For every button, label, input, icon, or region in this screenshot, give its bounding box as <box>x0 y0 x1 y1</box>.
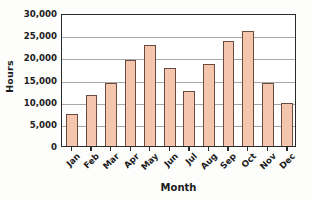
bar <box>183 91 195 146</box>
x-axis-tick-labels: JanFebMarAprMayJunJulAugSepOctNovDec <box>61 151 296 181</box>
bar <box>125 60 137 146</box>
bar <box>281 103 293 146</box>
x-axis-tick-label: Jan <box>64 151 82 169</box>
bar <box>262 83 274 146</box>
y-axis-tick-label: 25,000 <box>24 31 57 41</box>
x-axis-tick-label: Sep <box>219 151 239 171</box>
y-axis-tick-label: 0 <box>51 142 57 152</box>
x-axis-tick-label: Jun <box>162 151 180 169</box>
bar <box>164 68 176 146</box>
bar <box>66 114 78 146</box>
bar-series <box>62 15 295 146</box>
bar <box>223 41 235 146</box>
y-axis-title-text: Hours <box>4 60 15 93</box>
bar <box>242 31 254 146</box>
x-axis-title: Month <box>61 182 296 193</box>
x-axis-tick-label: Apr <box>121 151 140 170</box>
x-axis-tick-label: Dec <box>277 151 297 171</box>
x-axis-tick-label: Jul <box>184 151 200 167</box>
x-axis-tick-label: May <box>139 151 160 172</box>
y-axis-tick-labels: 05,00010,00015,00020,00025,00030,000 <box>16 0 60 152</box>
y-axis-tick-label: 15,000 <box>24 76 57 86</box>
plot-area <box>61 14 296 147</box>
x-axis-tick-label: Mar <box>101 151 121 171</box>
y-axis-tick-label: 30,000 <box>24 9 57 19</box>
x-axis-tick-label: Aug <box>198 151 218 171</box>
bar <box>105 83 117 146</box>
bar <box>144 45 156 146</box>
x-axis-tick-label: Feb <box>82 151 101 170</box>
y-axis-tick-label: 20,000 <box>24 53 57 63</box>
bar <box>86 95 98 146</box>
bar-chart-figure: Hours 05,00010,00015,00020,00025,00030,0… <box>0 0 311 200</box>
x-axis-tick-label: Oct <box>239 151 258 170</box>
y-axis-tick-label: 5,000 <box>30 120 57 130</box>
bar <box>203 64 215 146</box>
y-axis-tick-label: 10,000 <box>24 98 57 108</box>
x-axis-tick-label: Nov <box>257 151 277 171</box>
